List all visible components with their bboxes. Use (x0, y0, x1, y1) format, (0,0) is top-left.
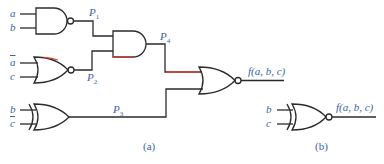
input-label-b-part-b: b (266, 104, 272, 115)
input-label-b: b (10, 22, 16, 33)
and-gate-3 (113, 31, 202, 72)
input-label-b-2: b (10, 104, 16, 115)
input-label-a: a (10, 8, 16, 19)
input-label-c-bar: c (10, 118, 15, 129)
signal-label-p4: P4 (160, 31, 170, 47)
signal-label-p1: P1 (89, 7, 99, 23)
input-label-a-bar: a (10, 57, 16, 68)
input-label-c: c (10, 71, 15, 82)
caption-b: (b) (315, 141, 328, 152)
nor-gate-2 (20, 51, 113, 83)
output-label-f-b: f(a, b, c) (336, 102, 373, 113)
signal-label-p3: P3 (113, 104, 123, 120)
output-label-f-a: f(a, b, c) (248, 66, 285, 77)
caption-a: (a) (143, 141, 155, 152)
xor-gate-4 (20, 89, 203, 130)
input-label-c-part-b: c (266, 118, 271, 129)
signal-label-p2: P2 (87, 72, 97, 88)
